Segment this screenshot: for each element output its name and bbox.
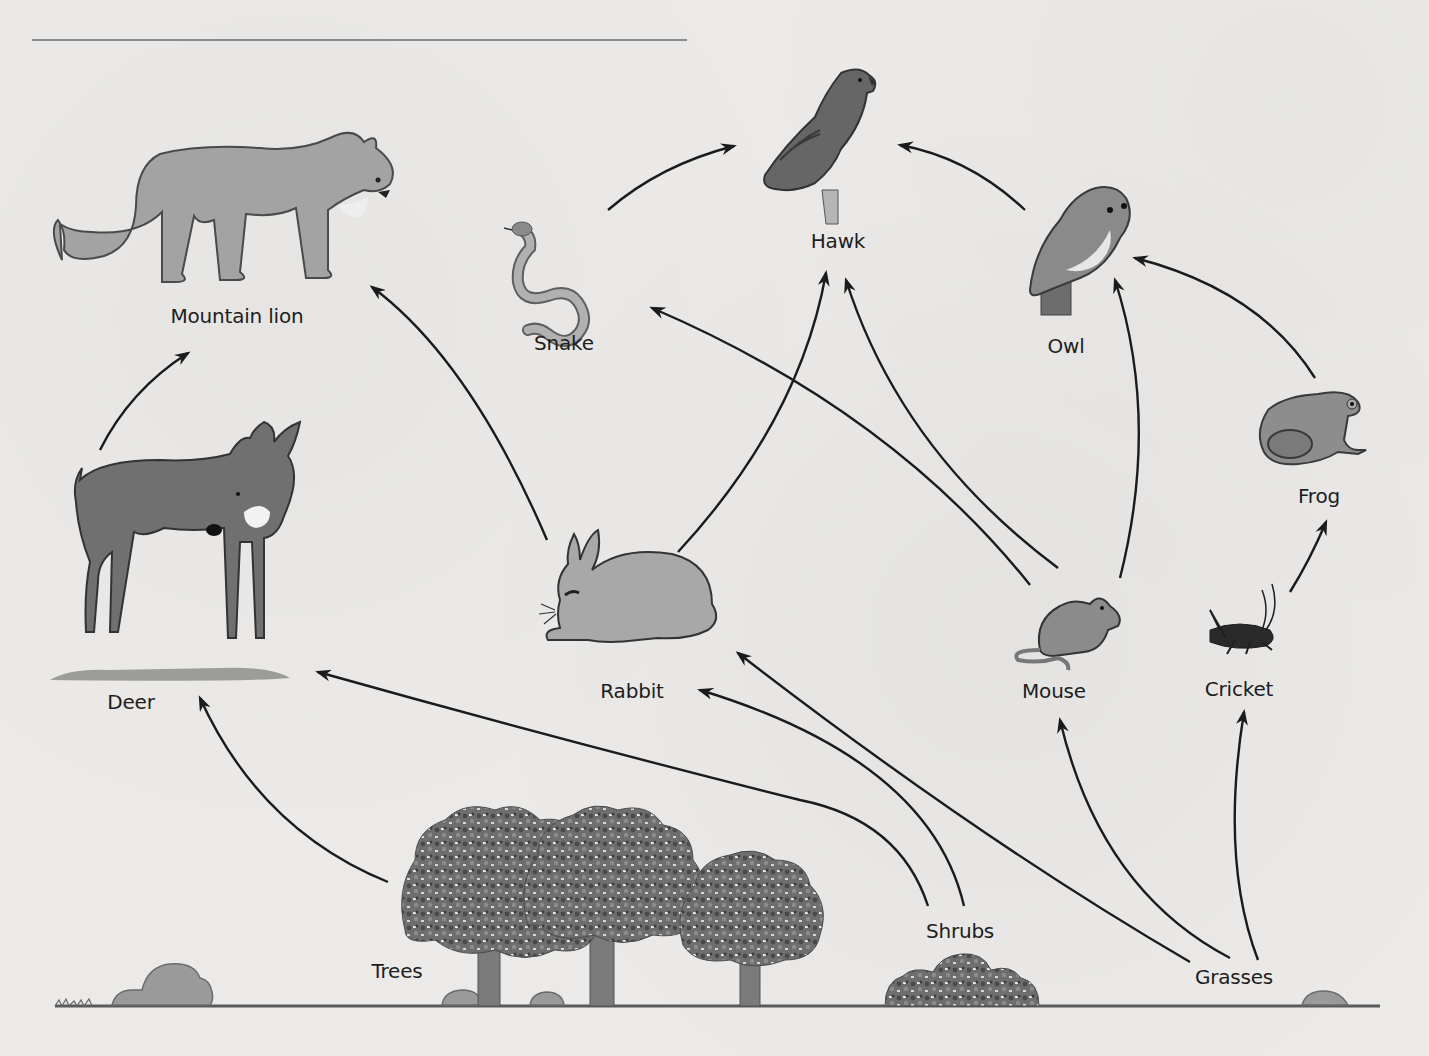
- rabbit-illustration: [539, 530, 716, 642]
- arrow-rabbit-to-mountain-lion: [372, 287, 547, 540]
- rocks: [112, 964, 1348, 1005]
- owl-illustration: [1030, 187, 1130, 315]
- arrow-owl-to-hawk: [900, 145, 1025, 210]
- food-web-arrows: [100, 145, 1326, 962]
- label-deer: Deer: [107, 690, 154, 714]
- mouse-illustration: [1016, 598, 1119, 670]
- arrow-trees-to-deer: [200, 698, 388, 882]
- ground: [55, 999, 1380, 1006]
- shrubs-illustration: [885, 954, 1039, 1006]
- label-mouse: Mouse: [1022, 679, 1086, 703]
- mountain-lion-illustration: [54, 133, 393, 282]
- deer-illustration: [50, 422, 300, 681]
- label-shrubs: Shrubs: [926, 919, 994, 943]
- label-frog: Frog: [1298, 484, 1340, 508]
- label-cricket: Cricket: [1205, 677, 1273, 701]
- label-snake: Snake: [534, 331, 594, 355]
- trees-illustration: [402, 806, 824, 1006]
- arrow-grasses-to-cricket: [1235, 712, 1258, 960]
- label-grasses: Grasses: [1195, 965, 1273, 989]
- arrow-deer-to-mountain-lion: [100, 353, 188, 450]
- arrow-rabbit-to-hawk: [678, 273, 826, 552]
- arrow-mouse-to-snake: [652, 308, 1030, 585]
- arrow-cricket-to-frog: [1290, 522, 1326, 592]
- label-trees: Trees: [371, 959, 422, 983]
- arrow-mouse-to-hawk: [846, 280, 1058, 568]
- cricket-illustration: [1210, 584, 1275, 654]
- label-owl: Owl: [1047, 334, 1084, 358]
- frog-illustration: [1260, 392, 1366, 464]
- arrow-grasses-to-mouse: [1060, 720, 1230, 958]
- hawk-illustration: [764, 69, 876, 224]
- arrow-frog-to-owl: [1135, 258, 1315, 378]
- snake-illustration: [504, 222, 584, 341]
- arrow-snake-to-hawk: [608, 146, 734, 210]
- label-mountain-lion: Mountain lion: [171, 304, 304, 328]
- arrow-mouse-to-owl: [1115, 280, 1139, 578]
- food-web-diagram: Mountain lion Snake Hawk Owl Frog Deer R…: [0, 0, 1429, 1056]
- label-rabbit: Rabbit: [600, 679, 663, 703]
- illustrations: [0, 0, 1429, 1056]
- label-hawk: Hawk: [811, 229, 865, 253]
